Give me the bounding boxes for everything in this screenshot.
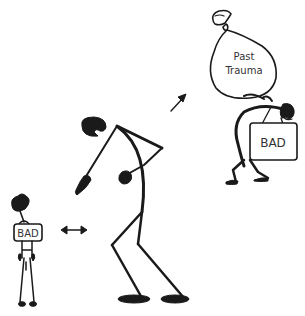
adult-shins bbox=[112, 244, 184, 298]
diagonal-arrow-icon bbox=[171, 94, 186, 111]
adult-hand-fist bbox=[119, 171, 132, 184]
adult-shoulder-back bbox=[117, 126, 162, 148]
child-bag-label: BAD bbox=[17, 228, 39, 239]
child-foot-right bbox=[30, 302, 37, 307]
adult-head bbox=[82, 117, 106, 136]
sack-label-line1: Past bbox=[234, 51, 255, 62]
adult-thighs bbox=[112, 212, 142, 245]
child-foot-left bbox=[19, 302, 26, 307]
child-legs bbox=[20, 258, 34, 302]
sack-knot bbox=[213, 10, 231, 24]
child-hand-right bbox=[32, 254, 35, 261]
burdened-foot-left bbox=[226, 180, 238, 184]
adult-foot-right bbox=[161, 295, 189, 303]
burdened-head bbox=[280, 104, 294, 119]
burdened-foot-right bbox=[254, 178, 268, 182]
adult-hand-hanging bbox=[76, 176, 92, 196]
bent-adult-figure bbox=[76, 117, 190, 303]
double-arrow-icon bbox=[61, 226, 87, 234]
sack-knot-fold bbox=[215, 15, 224, 16]
small-child-figure: BAD bbox=[12, 194, 42, 306]
illustration-canvas: BAD bbox=[0, 0, 305, 316]
adult-foot-left bbox=[118, 295, 150, 303]
sack-label-line2: Trauma bbox=[224, 65, 262, 76]
adult-arm-bent bbox=[126, 148, 162, 175]
child-head bbox=[12, 194, 30, 211]
burdened-figure: Past Trauma BAD bbox=[210, 10, 297, 184]
child-neck bbox=[20, 211, 24, 222]
child-torso bbox=[22, 241, 32, 258]
child-hand-left bbox=[18, 254, 21, 261]
adult-spine bbox=[118, 127, 144, 212]
suitcase-label: BAD bbox=[260, 136, 286, 150]
